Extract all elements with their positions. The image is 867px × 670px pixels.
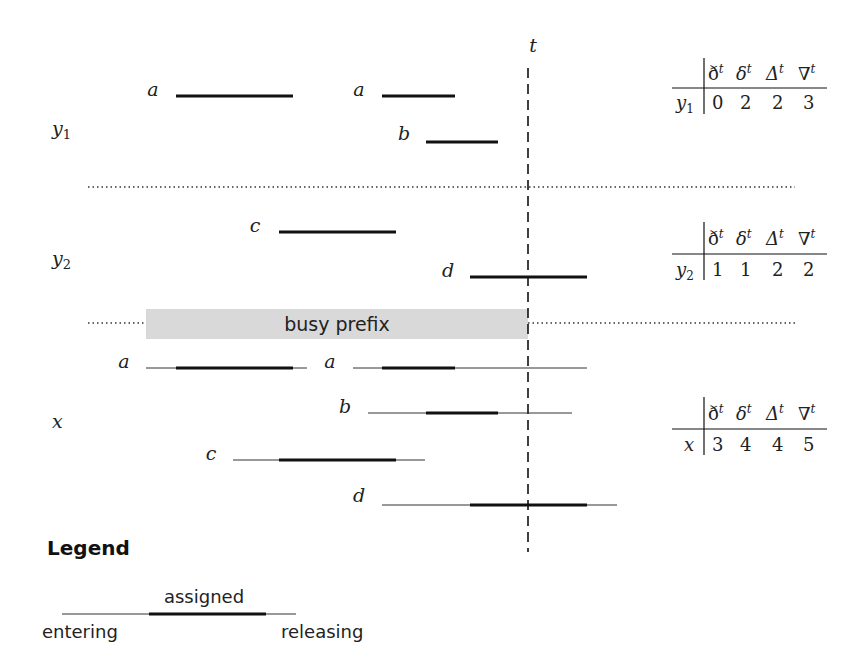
row-label-y2: y2 (51, 247, 71, 272)
interval-y2-d: d (442, 259, 587, 281)
svg-text:d: d (442, 259, 454, 281)
busy-prefix-label: busy prefix (284, 313, 390, 335)
interval-y2-c: c (250, 214, 396, 236)
svg-text:ðt δt Δt ∇t: ðt δt Δt ∇t (708, 56, 816, 84)
svg-text:a: a (147, 78, 158, 100)
legend-title: Legend (47, 536, 130, 560)
table-x: ðt δt Δt ∇t x 3 4 4 5 (672, 396, 827, 455)
row-label-x: x (52, 410, 63, 432)
interval-y1-b: b (398, 122, 498, 144)
table-y1: ðt δt Δt ∇t y1 0 2 2 3 (672, 56, 827, 117)
interval-x-d: d (353, 484, 617, 506)
svg-text:a: a (118, 350, 129, 372)
svg-text:y2 1 1 2: y2 1 1 2 2 (675, 259, 814, 284)
interval-x-b: b (339, 395, 572, 417)
legend: Legend assigned entering releasing (42, 536, 363, 642)
svg-text:ðt δt Δt ∇t: ðt δt Δt ∇t (708, 221, 816, 249)
svg-text:ðt δt Δt ∇t: ðt δt Δt ∇t (708, 396, 816, 424)
interval-x-c: c (206, 442, 425, 464)
legend-entering-label: entering (42, 621, 118, 642)
svg-text:y1: y1 (51, 117, 71, 142)
interval-y1-a2: a (353, 78, 455, 100)
legend-releasing-label: releasing (281, 621, 363, 642)
legend-assigned-label: assigned (164, 586, 244, 607)
interval-x-a2: a (324, 350, 587, 372)
svg-text:a: a (353, 78, 364, 100)
table-y2: ðt δt Δt ∇t y2 1 1 2 2 (672, 221, 827, 284)
svg-text:d: d (353, 484, 365, 506)
time-marker: t (528, 34, 537, 552)
time-marker-label: t (529, 34, 537, 56)
svg-text:y2: y2 (51, 247, 71, 272)
svg-text:b: b (398, 122, 410, 144)
svg-text:b: b (339, 395, 351, 417)
svg-text:a: a (324, 350, 335, 372)
svg-text:c: c (250, 214, 261, 236)
busy-prefix: busy prefix (146, 309, 528, 339)
interval-y1-a1: a (147, 78, 293, 100)
svg-text:x: x (52, 410, 63, 432)
interval-x-a1: a (118, 350, 307, 372)
svg-text:y1 0 2 2: y1 0 2 2 3 (675, 92, 814, 117)
svg-text:c: c (206, 442, 217, 464)
row-label-y1: y1 (51, 117, 71, 142)
interval-diagram: busy prefix t y1 y2 x a a b c d a (0, 0, 867, 670)
